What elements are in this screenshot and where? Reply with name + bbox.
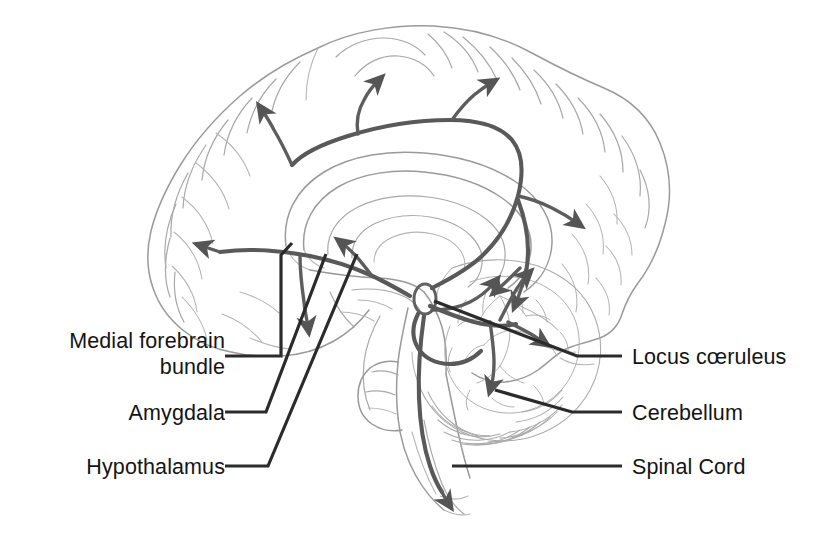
label-locus-coeruleus-line1: Locus cœruleus [632,344,822,370]
label-locus-coeruleus: Locus cœruleus [632,344,822,370]
descending-spinal-projection [419,316,442,492]
ascending-dorsal-bundle [292,120,521,288]
label-cerebellum: Cerebellum [632,400,822,426]
cerebral-cortex-outline [148,26,670,382]
leader-hypothalamus [225,254,357,466]
medial-forebrain-bundle-arrow [202,246,220,252]
corpus-callosum [285,152,552,292]
label-hypothalamus-line1: Hypothalamus [20,454,225,480]
label-spinal-cord: Spinal Cord [632,454,822,480]
superior-cortex-branch-2 [452,83,491,120]
label-cerebellum-line1: Cerebellum [632,400,822,426]
label-amygdala: Amygdala [20,400,225,426]
label-medial-forebrain-bundle: Medial forebrain bundle [20,328,225,380]
cerebellar-branch-down [490,322,494,387]
label-medial-forebrain-bundle-line2: bundle [20,354,225,380]
superior-cortex-branch-1 [357,81,378,134]
label-spinal-cord-line1: Spinal Cord [632,454,822,480]
frontal-cortex-branch [262,110,292,165]
label-hypothalamus: Hypothalamus [20,454,225,480]
brain-projection-diagram: Medial forebrain bundle Amygdala Hypotha… [0,0,828,533]
label-medial-forebrain-bundle-line1: Medial forebrain [20,328,225,354]
leader-amygdala [225,254,326,412]
label-amygdala-line1: Amygdala [20,400,225,426]
medial-forebrain-bundle-path [220,250,410,296]
